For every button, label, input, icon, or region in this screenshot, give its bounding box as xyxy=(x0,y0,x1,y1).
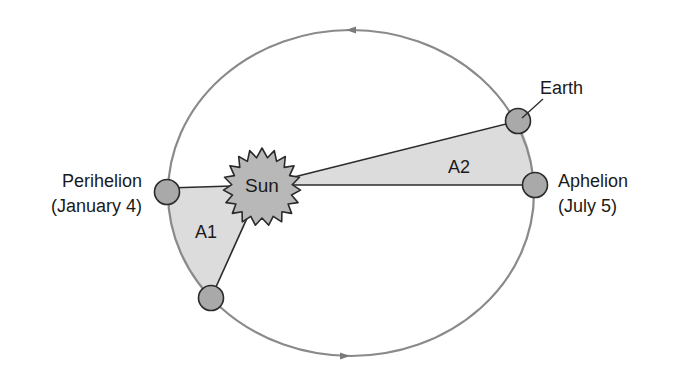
area-a2-label: A2 xyxy=(448,157,470,177)
planet-earth-icon xyxy=(506,109,531,134)
aphelion-date-label: (July 5) xyxy=(558,196,617,216)
aphelion-label: Aphelion xyxy=(558,171,628,191)
kepler-orbit-diagram: Sun A1 A2 Perihelion (January 4) Aphelio… xyxy=(0,0,673,374)
area-a1-label: A1 xyxy=(195,222,217,242)
planet-perihelion-icon xyxy=(155,180,180,205)
orbit-arrow-bottom-icon xyxy=(340,353,350,360)
planet-lower-icon xyxy=(199,286,224,311)
sun-label: Sun xyxy=(245,175,279,196)
perihelion-label: Perihelion xyxy=(62,171,142,191)
earth-label: Earth xyxy=(540,78,583,98)
earth-leader-line xyxy=(522,99,543,118)
orbit-arrow-top-icon xyxy=(346,27,356,34)
perihelion-date-label: (January 4) xyxy=(51,196,142,216)
planet-aphelion-icon xyxy=(523,173,548,198)
